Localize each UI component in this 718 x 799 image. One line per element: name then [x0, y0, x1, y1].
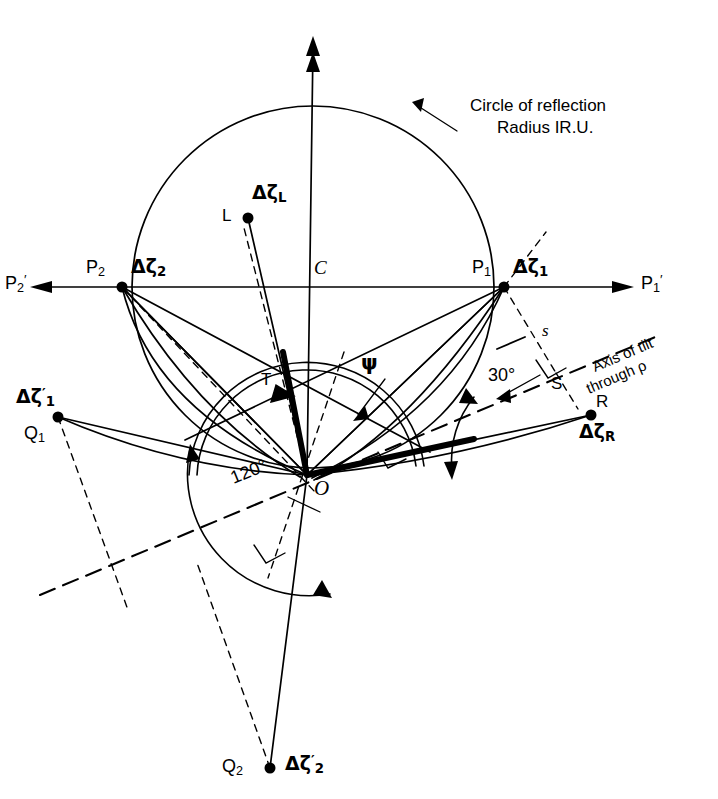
label-node-Q2-letter: Q [222, 756, 236, 776]
chord-P2-fan-a [122, 287, 307, 475]
label-vector-dzR: ΔζR [579, 422, 615, 444]
label-node-S: S [551, 375, 562, 392]
circle-caption-line1: Circle of reflection [470, 97, 606, 114]
circle-caption-arrowhead [412, 98, 424, 112]
dzL-sub: L [278, 190, 286, 205]
label-node-L: L [222, 207, 231, 224]
label-node-Q1: Q1 [24, 424, 45, 445]
label-vector-dz2-prime: Δζ′2 [285, 753, 324, 776]
dz1-delta: Δ [513, 255, 528, 277]
dz2p-sub: 2 [315, 761, 324, 776]
diagram-svg [0, 0, 718, 799]
chord-P2-to-Q1 [58, 287, 122, 417]
dz2p-delta: Δ [285, 752, 300, 774]
label-node-R: R [596, 393, 608, 410]
label-vector-dz1: Δζ1 [513, 257, 548, 279]
dz1p-delta: Δ [16, 385, 31, 407]
chord-P1-fan-a [307, 287, 504, 475]
dz2p-zeta: ζ [300, 752, 311, 774]
label-node-P2: P2 [86, 258, 105, 279]
dzL-delta: Δ [252, 181, 267, 203]
circle-caption-leader [418, 106, 457, 131]
label-node-Q1-letter: Q [24, 423, 38, 443]
dz2-zeta: ζ [146, 255, 157, 277]
label-node-P2-prime-letter: P [5, 273, 17, 293]
node-dot-R [586, 410, 597, 421]
label-node-P2-prime-sub: 2 [17, 281, 24, 295]
label-node-P2-letter: P [86, 257, 98, 277]
label-angle-psi: ψ [361, 353, 378, 374]
label-node-Q2-sub: 2 [236, 764, 243, 778]
label-node-P1-prime-letter: P [641, 273, 653, 293]
angle-30-arrow-b [444, 461, 458, 480]
label-node-P2-prime-mark: ′ [24, 272, 27, 287]
label-node-Q2: Q2 [222, 757, 243, 778]
dz2-delta: Δ [131, 255, 146, 277]
dz2-sub: 2 [157, 264, 166, 279]
node-dot-Q1 [53, 412, 64, 423]
dzL-zeta: ζ [267, 181, 278, 203]
chord-P1-fan-b [185, 287, 504, 440]
label-node-P1: P1 [472, 258, 491, 279]
dz1p-sub: 1 [46, 394, 55, 409]
dashed-P2-to-O-aux [122, 287, 315, 492]
label-node-P2-sub: 2 [98, 265, 105, 279]
label-node-P1-prime: P1′ [641, 273, 663, 294]
dashed-axis-of-tilt [40, 335, 660, 595]
circle-caption-line2: Radius IR.U. [497, 119, 593, 136]
node-dot-L [243, 213, 254, 224]
dz1p-zeta: ζ [31, 385, 42, 407]
label-origin-O: O [314, 478, 329, 499]
axis-tilt-tick [497, 337, 525, 349]
dz1-zeta: ζ [528, 255, 539, 277]
label-center-C: C [314, 258, 327, 277]
chord-P2-fan-b [122, 287, 430, 452]
dashed-Q1-down [58, 417, 128, 610]
node-dot-P2 [117, 282, 128, 293]
dzR-sub: R [605, 429, 615, 444]
label-node-P1-letter: P [472, 257, 484, 277]
psi-leader-arrowhead [353, 406, 369, 421]
label-vector-dz2: Δζ2 [131, 257, 166, 279]
dz1-sub: 1 [539, 264, 548, 279]
label-node-P1-sub: 1 [484, 265, 491, 279]
horizontal-left-arrowhead [30, 281, 52, 293]
dzR-delta: Δ [579, 420, 594, 442]
dzR-zeta: ζ [594, 420, 605, 442]
node-dot-P1 [499, 282, 510, 293]
label-angle-30: 30° [488, 366, 515, 384]
angle-120-arrow-b [313, 580, 332, 598]
dashed-O-to-L-aux [243, 224, 307, 475]
label-node-Q1-sub: 1 [38, 431, 45, 445]
ray-O-to-Q1 [58, 417, 307, 475]
label-distance-s: s [542, 322, 549, 339]
node-dot-Q2 [265, 763, 276, 774]
label-node-P1-prime-mark: ′ [660, 272, 663, 287]
dashed-Q2-up [196, 560, 270, 768]
label-vector-dzL: ΔζL [252, 183, 286, 205]
label-node-P2-prime: P2′ [5, 273, 27, 294]
label-node-P1-prime-sub: 1 [653, 281, 660, 295]
right-angle-tick-left [254, 545, 285, 563]
angle-30-leader-arrowhead [496, 389, 511, 403]
horizontal-right-arrowhead [612, 281, 634, 293]
label-vector-dz1-prime: Δζ′1 [16, 386, 55, 409]
angle-30-arc [452, 397, 474, 470]
figure-canvas: Circle of reflection Radius IR.U. Axis o… [0, 0, 718, 799]
vertical-axis [307, 46, 313, 475]
label-node-T: T [261, 371, 271, 388]
